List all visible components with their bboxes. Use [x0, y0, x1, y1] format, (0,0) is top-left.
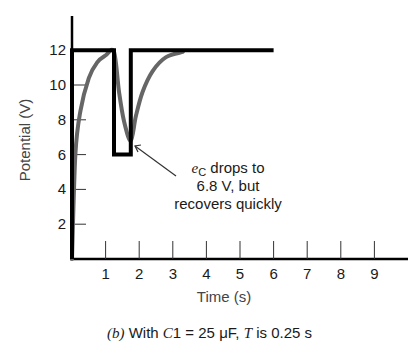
input-pulse-line	[72, 50, 274, 259]
svg-text:4: 4	[58, 180, 66, 197]
y-axis-label: Potential (V)	[16, 99, 33, 182]
svg-text:8: 8	[337, 265, 345, 282]
annotation-line-3: recovers quickly	[174, 195, 282, 212]
chart: 24681012 123456789 eC drops to 6.8 V, bu…	[0, 0, 419, 356]
x-axis-label: Time (s)	[197, 288, 251, 305]
svg-text:7: 7	[303, 265, 311, 282]
annotation-line-2: 6.8 V, but	[197, 177, 261, 194]
svg-text:2: 2	[58, 215, 66, 232]
svg-text:10: 10	[49, 76, 66, 93]
caption-var-t: T	[244, 325, 252, 341]
svg-text:6: 6	[58, 146, 66, 163]
svg-text:8: 8	[58, 111, 66, 128]
svg-text:6: 6	[269, 265, 277, 282]
annotation-arrow	[135, 145, 176, 176]
figure-caption: (b) With C1 = 25 μF, T is 0.25 s	[0, 324, 419, 342]
caption-text-pre: With	[124, 324, 162, 341]
x-ticks: 123456789	[101, 241, 378, 282]
svg-text:12: 12	[49, 41, 66, 58]
caption-text-post: is 0.25 s	[252, 324, 312, 341]
annotation-line-1: eC drops to	[192, 159, 265, 178]
svg-text:5: 5	[236, 265, 244, 282]
caption-part: (b)	[107, 325, 125, 341]
svg-text:1: 1	[101, 265, 109, 282]
caption-value: 1 = 25 μF,	[173, 324, 244, 341]
svg-text:2: 2	[135, 265, 143, 282]
svg-text:4: 4	[202, 265, 210, 282]
svg-text:9: 9	[370, 265, 378, 282]
y-ticks: 24681012	[49, 41, 86, 232]
svg-text:3: 3	[169, 265, 177, 282]
caption-var-c: C	[163, 325, 173, 341]
